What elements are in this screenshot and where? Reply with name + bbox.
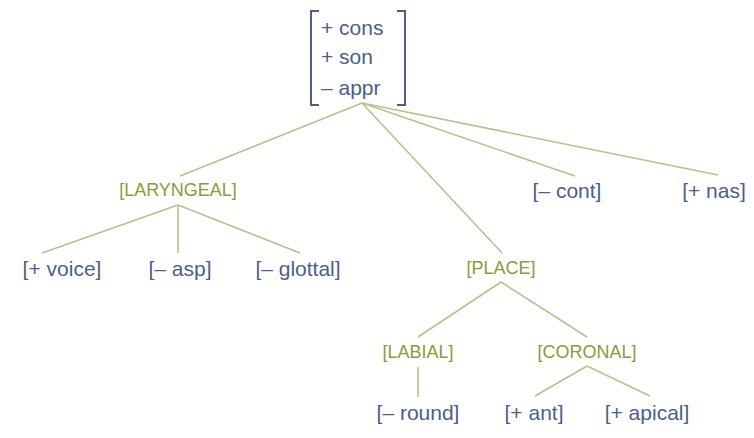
branch-place-to-labial [418, 282, 501, 337]
node-laryngeal: [LARYNGEAL] [119, 181, 237, 199]
node-round: [– round] [377, 402, 460, 423]
node-coronal: [CORONAL] [537, 343, 636, 361]
root-feature-son: + son [321, 46, 373, 67]
branch-root-to-place [362, 103, 502, 253]
branch-laryngeal-to-voice [42, 205, 178, 253]
node-asp: [– asp] [148, 258, 211, 279]
branch-place-to-coronal [501, 282, 587, 337]
right-bracket [397, 10, 406, 106]
node-apical: [+ apical] [605, 402, 690, 423]
node-ant: [+ ant] [505, 402, 564, 423]
root-feature-matrix: + cons + son – appr [310, 10, 406, 106]
branch-root-to-laryngeal [180, 103, 362, 176]
node-nas: [+ nas] [682, 180, 746, 201]
branch-laryngeal-to-glottal [178, 205, 300, 253]
node-cont: [– cont] [533, 180, 602, 201]
branch-coronal-to-ant [535, 366, 587, 396]
node-glottal: [– glottal] [255, 258, 340, 279]
root-feature-cons: + cons [321, 17, 383, 38]
left-bracket [310, 10, 319, 106]
node-labial: [LABIAL] [382, 343, 453, 361]
node-voice: [+ voice] [23, 258, 102, 279]
root-feature-appr: – appr [321, 77, 381, 98]
node-place: [PLACE] [466, 259, 535, 277]
branch-coronal-to-apical [587, 366, 650, 396]
